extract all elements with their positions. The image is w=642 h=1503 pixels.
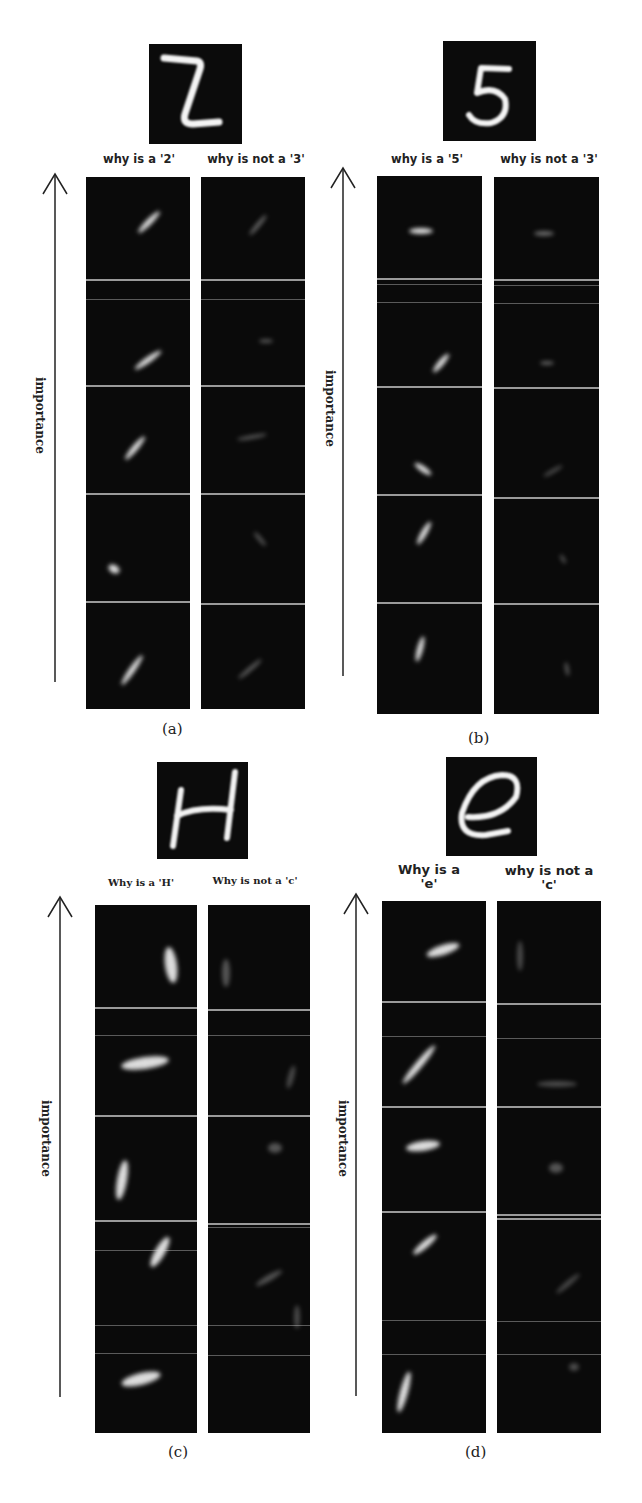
letter-e-glyph — [446, 757, 537, 856]
importance-label: importance — [39, 1100, 53, 1177]
explanation-column-positive — [86, 177, 190, 709]
caption-d: (d) — [465, 1443, 486, 1461]
explanation-column-negative — [201, 177, 305, 709]
input-image-2 — [149, 44, 242, 144]
digit-2-glyph — [149, 44, 242, 144]
caption-a: (a) — [162, 720, 183, 738]
explanation-column-positive — [95, 905, 197, 1433]
caption-c: (c) — [168, 1443, 188, 1461]
digit-5-glyph — [443, 41, 536, 141]
importance-label: importance — [323, 370, 337, 447]
explanation-column-negative — [494, 177, 599, 714]
input-image-5 — [443, 41, 536, 141]
header-why-not: why is not a 'c' — [490, 864, 608, 892]
explanation-column-negative — [497, 901, 601, 1433]
input-image-H — [157, 762, 248, 859]
importance-label: importance — [336, 1100, 350, 1177]
header-why-not: why is not a '3' — [487, 152, 611, 166]
header-why-is: Why is a 'H' — [88, 877, 194, 888]
header-why-is: Why is a 'e' — [374, 863, 484, 891]
header-why-is: why is a '2' — [90, 152, 188, 166]
caption-b: (b) — [468, 729, 489, 747]
header-why-not: why is not a '3' — [194, 152, 318, 166]
header-why-not: Why is not a 'c' — [200, 875, 310, 886]
input-image-e — [446, 757, 537, 856]
explanation-column-positive — [382, 901, 486, 1433]
explanation-column-negative — [208, 905, 310, 1433]
explanation-column-positive — [377, 176, 482, 714]
importance-label: importance — [33, 377, 47, 454]
letter-H-glyph — [157, 762, 248, 859]
header-why-is: why is a '5' — [378, 152, 476, 166]
